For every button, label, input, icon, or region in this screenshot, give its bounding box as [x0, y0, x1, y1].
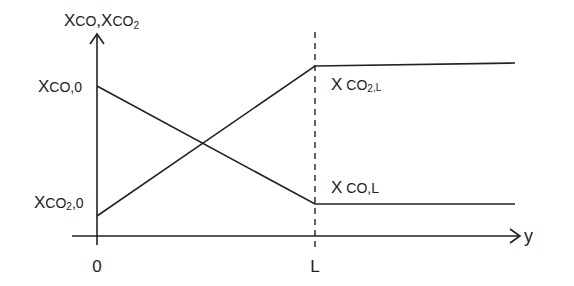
xco2-end-label: XCO2,L: [331, 75, 382, 94]
y-axis-label: XCO,XCO2: [64, 11, 139, 31]
x-tick-origin: 0: [92, 257, 101, 276]
xco-start-label: XCO,0: [38, 77, 82, 96]
x-axis-label: y: [524, 226, 533, 246]
xco2-start-label: XCO2,0: [34, 193, 84, 212]
concentration-diagram: XCO,XCO2 XCO,0 XCO2,0 XCO2,L XCO,L 0 L y: [0, 0, 574, 286]
x-tick-boundary: L: [310, 257, 319, 276]
xco-end-label: XCO,L: [331, 178, 379, 197]
xco2-profile-line: [97, 63, 515, 216]
xco-profile-line: [97, 86, 515, 204]
